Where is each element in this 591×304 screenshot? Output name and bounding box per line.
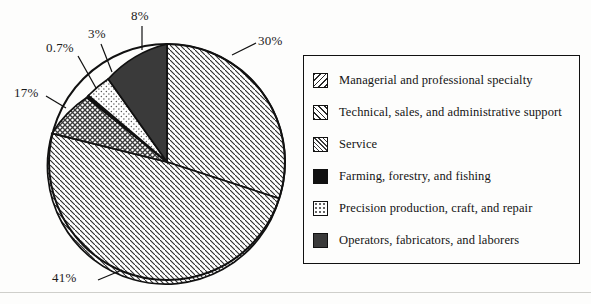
leader-line-17 — [46, 96, 66, 108]
swatch-solid-black-icon — [313, 169, 328, 184]
legend-item-farming[interactable]: Farming, forestry, and fishing — [313, 165, 491, 187]
leader-line-30 — [232, 43, 256, 55]
pie-label-41: 41% — [52, 270, 76, 286]
legend-label-managerial: Managerial and professional specialty — [339, 73, 533, 88]
pie-label-17: 17% — [14, 85, 38, 101]
swatch-diagonal-slash-hatch-icon — [313, 105, 328, 120]
legend-item-operators[interactable]: Operators, fabricators, and laborers — [313, 229, 519, 251]
pie-label-8: 8% — [131, 8, 149, 24]
pie-label-3: 3% — [88, 26, 106, 42]
leader-line-07 — [78, 56, 96, 88]
swatch-light-stipple-dots-icon — [313, 201, 328, 216]
swatch-crosshatch-grid-icon — [313, 137, 328, 152]
pie-label-30: 30% — [258, 33, 282, 49]
legend-label-operators: Operators, fabricators, and laborers — [339, 233, 519, 248]
legend-label-technical: Technical, sales, and administrative sup… — [339, 105, 562, 120]
legend: Managerial and professional specialty Te… — [303, 55, 580, 264]
legend-item-technical[interactable]: Technical, sales, and administrative sup… — [313, 101, 562, 123]
legend-item-precision[interactable]: Precision production, craft, and repair — [313, 197, 532, 219]
legend-item-managerial[interactable]: Managerial and professional specialty — [313, 69, 533, 91]
swatch-solid-dark-gray-icon — [313, 233, 328, 248]
legend-item-service[interactable]: Service — [313, 133, 377, 155]
legend-label-precision: Precision production, craft, and repair — [339, 201, 532, 216]
page-bottom-rule — [0, 292, 591, 293]
pie-label-07: 0.7% — [46, 40, 74, 56]
swatch-diagonal-backslash-hatch-icon — [313, 73, 328, 88]
pie-chart-figure: 30% 41% 17% 0.7% 3% 8% Managerial and pr… — [0, 0, 591, 304]
legend-label-farming: Farming, forestry, and fishing — [339, 169, 491, 184]
legend-label-service: Service — [339, 137, 377, 152]
